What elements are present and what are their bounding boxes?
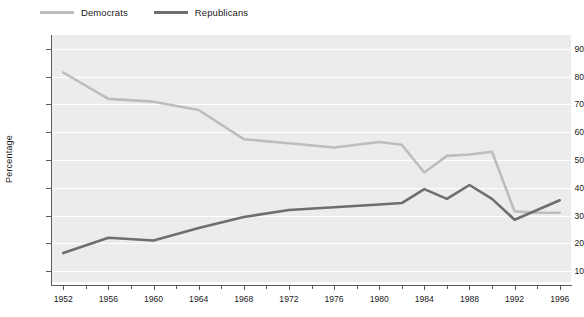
series-layer [0, 0, 584, 317]
line-democrats [63, 73, 559, 213]
chart-root: Democrats Republicans Percentage 1020304… [0, 0, 584, 317]
line-republicans [63, 185, 559, 253]
